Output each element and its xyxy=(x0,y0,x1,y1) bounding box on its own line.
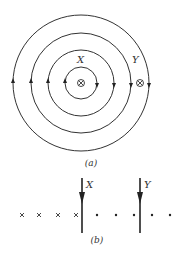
arrow-up-icon xyxy=(29,78,33,83)
wire-x-into-page-icon xyxy=(78,80,85,87)
arrow-down-icon xyxy=(95,83,99,88)
magnetic-field-diagram: X Y (a) X Y (b) xyxy=(0,0,184,260)
cross-icon xyxy=(74,213,78,217)
dot-icon xyxy=(133,214,135,216)
arrow-up-icon xyxy=(46,78,50,83)
label-x-b: X xyxy=(85,179,94,190)
caption-a: (a) xyxy=(85,158,98,168)
label-y-b: Y xyxy=(144,179,152,190)
cross-icon xyxy=(37,213,41,217)
field-out-of-page-icons xyxy=(96,214,171,216)
arrow-down-icon xyxy=(147,83,151,88)
field-into-page-icons xyxy=(20,213,78,217)
cross-icon xyxy=(20,213,24,217)
label-y: Y xyxy=(132,54,140,65)
arrow-down-icon xyxy=(137,192,143,204)
arrow-up-icon xyxy=(11,78,15,83)
arrow-up-icon xyxy=(63,78,67,83)
dot-icon xyxy=(169,214,171,216)
arrow-down-icon xyxy=(79,192,85,204)
arrow-down-icon xyxy=(129,83,133,88)
dot-icon xyxy=(151,214,153,216)
dot-icon xyxy=(96,214,98,216)
dot-icon xyxy=(115,214,117,216)
arrow-down-icon xyxy=(112,83,116,88)
cross-icon xyxy=(56,213,60,217)
caption-b: (b) xyxy=(91,235,104,245)
wire-y-into-page-icon xyxy=(137,80,144,87)
label-x: X xyxy=(76,54,85,65)
figure-b: X Y (b) xyxy=(20,178,171,245)
